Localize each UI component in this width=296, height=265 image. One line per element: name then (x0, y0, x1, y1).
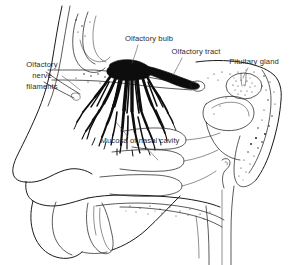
nerve-filaments-label-line3: filaments (26, 82, 57, 91)
olfactory-bulb-label: Olfactory bulb (125, 34, 173, 43)
nerve-filaments-label-line1: Olfactory (26, 60, 57, 69)
mucosa-label: Mucosa of nasal cavity (100, 136, 179, 145)
nerve-filaments-leader (62, 76, 80, 90)
pituitary-gland-label: Pituitary gland (229, 57, 279, 66)
olfactory-tract-label: Olfactory tract (172, 47, 222, 56)
pituitary-stipple (232, 78, 255, 96)
face-profile-outline (13, 6, 92, 206)
pituitary-gland (226, 73, 262, 99)
eustachian-tube-opening (222, 159, 230, 188)
sphenoid-sinus (203, 96, 254, 160)
label-olfactory-bulb: Olfactory bulb (125, 34, 173, 63)
label-olfactory-tract: Olfactory tract (172, 47, 222, 75)
olfactory-tract-leader (173, 58, 182, 75)
nasal-cavity-diagram: Olfactory bulb Olfactory tract Pituitary… (0, 0, 296, 265)
anatomy-figure: Olfactory bulb Olfactory tract Pituitary… (0, 0, 296, 265)
hard-palate (88, 195, 224, 227)
frontal-sinus (73, 12, 110, 72)
label-olfactory-nerve-filaments: Olfactory nerve filaments (26, 60, 80, 91)
upper-lip-and-teeth (31, 196, 180, 258)
nasopharynx (196, 206, 209, 265)
nerve-filaments-label-line2: nerve (32, 71, 52, 80)
